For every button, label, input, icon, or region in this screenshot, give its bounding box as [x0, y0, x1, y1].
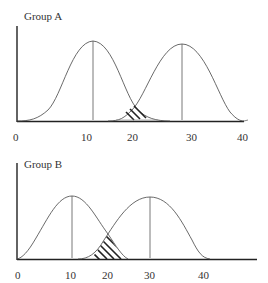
x-tick-label: 10 — [65, 269, 77, 281]
panel-group-b: Group B 0 10 20 30 40 — [15, 158, 257, 281]
x-tick-label: 20 — [127, 131, 139, 143]
distribution-curve-right — [108, 44, 244, 121]
diagram-canvas: Group A 0 10 20 30 40 Group B — [0, 0, 268, 283]
overlap-hatch — [86, 232, 134, 260]
panel-title: Group A — [24, 10, 62, 22]
x-tick-label: 40 — [198, 269, 210, 281]
distribution-curve-left — [17, 41, 170, 121]
x-tick-label: 30 — [186, 131, 198, 143]
x-tick-label: 0 — [15, 269, 21, 281]
x-tick-label: 0 — [13, 131, 19, 143]
distribution-curve-right — [78, 197, 210, 259]
panel-title: Group B — [24, 158, 62, 170]
x-tick-label: 20 — [102, 269, 114, 281]
panel-group-a: Group A 0 10 20 30 40 — [13, 10, 249, 143]
x-tick-label: 30 — [144, 269, 156, 281]
x-tick-label: 40 — [237, 131, 249, 143]
x-tick-label: 10 — [81, 131, 93, 143]
